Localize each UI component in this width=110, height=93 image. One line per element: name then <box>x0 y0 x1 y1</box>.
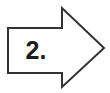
step-number-label: 2. <box>8 28 62 73</box>
numbered-arrow-figure: 2. <box>0 0 110 93</box>
